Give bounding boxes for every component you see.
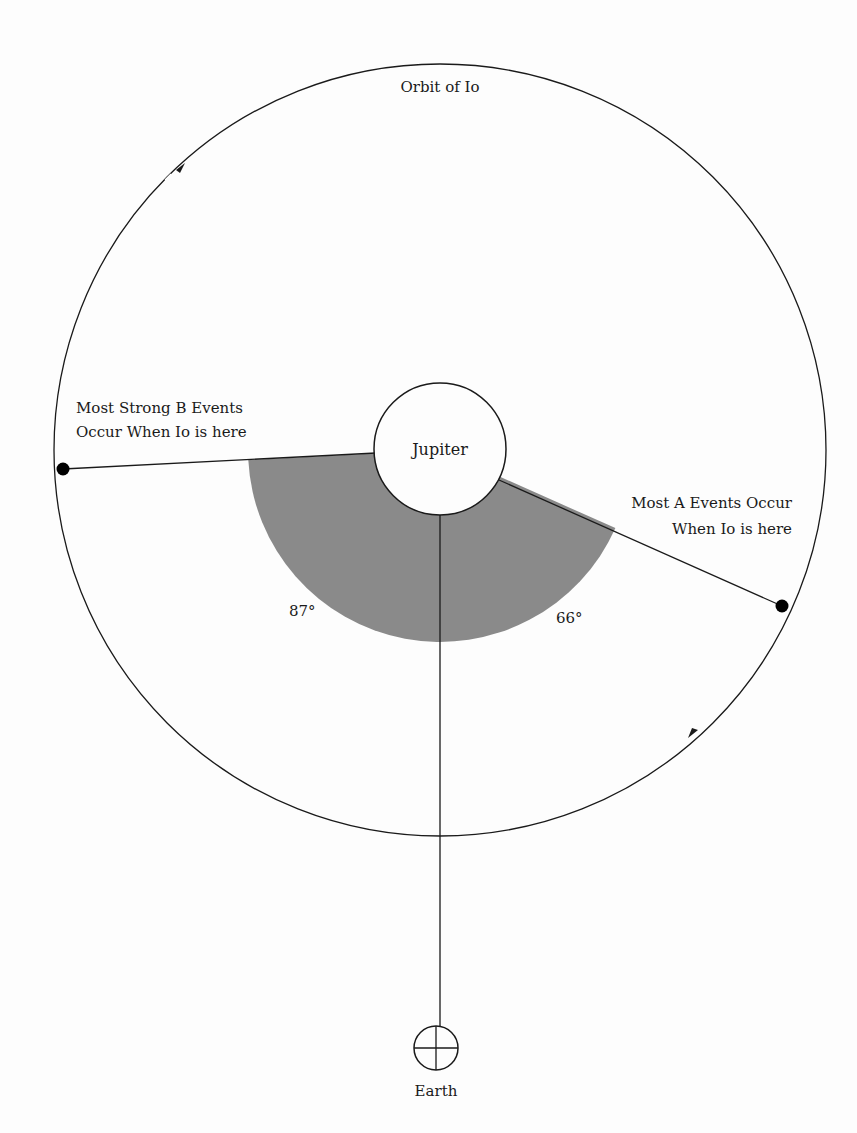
earth-label: Earth (415, 1082, 458, 1100)
earth-icon (414, 1026, 458, 1070)
angle-b-label: 87° (289, 602, 316, 620)
io-orbit-diagram: Orbit of Io Jupiter Earth Most Strong B … (0, 0, 857, 1133)
io-b-position-dot (57, 463, 70, 476)
jupiter-label: Jupiter (410, 440, 468, 459)
a-events-label-line1: Most A Events Occur (631, 494, 793, 512)
orbit-arrow-icon (688, 728, 698, 738)
a-events-label-line2: When Io is here (672, 520, 792, 538)
angle-a-label: 66° (556, 609, 583, 627)
b-events-label-line2: Occur When Io is here (76, 423, 247, 441)
io-a-position-dot (776, 600, 789, 613)
b-events-label-line1: Most Strong B Events (76, 399, 243, 417)
orbit-label: Orbit of Io (401, 78, 480, 96)
